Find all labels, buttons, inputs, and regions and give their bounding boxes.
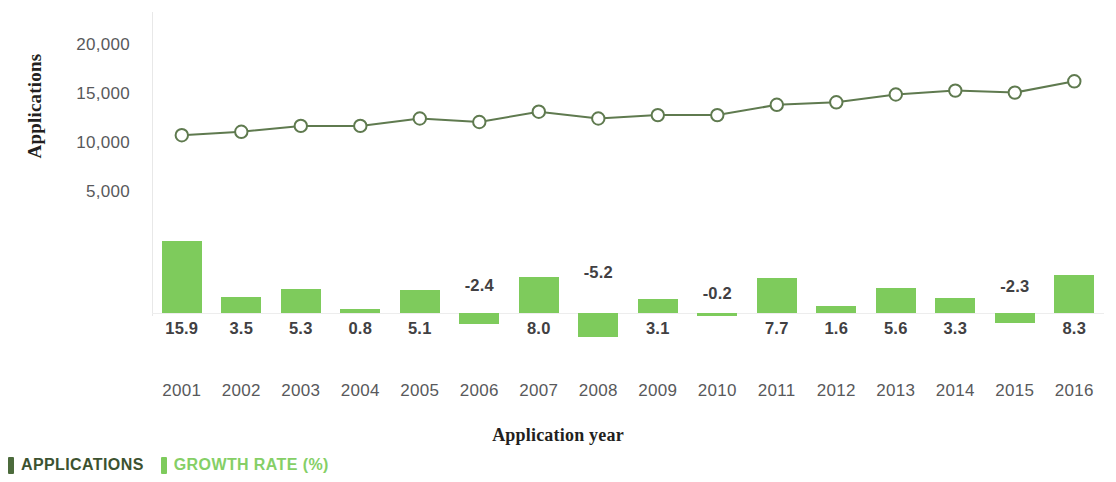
bar [995,313,1035,323]
bar-value-label: -2.3 [975,277,1055,296]
legend-swatch-icon [8,457,14,474]
chart-figure: Applications Application year 5,00010,00… [0,0,1116,482]
line-data-point [1009,86,1021,98]
bar-value-label: 3.3 [915,319,995,338]
bar [281,289,321,313]
bar [935,298,975,313]
line-data-point [711,109,723,121]
line-data-point [176,129,188,141]
bar [757,278,797,313]
bar [578,313,618,337]
line-data-point [949,84,961,96]
line-data-point [235,126,247,138]
x-tick-label: 2016 [1034,381,1114,401]
line-data-point [890,88,902,100]
bar [340,309,380,313]
bar [459,313,499,324]
legend-swatch-icon [161,457,167,474]
line-data-point [295,120,307,132]
line-data-point [473,116,485,128]
bar-value-label: 5.1 [380,319,460,338]
legend-label: APPLICATIONS [21,456,144,474]
legend-item[interactable]: GROWTH RATE (%) [161,456,329,474]
line-data-point [533,106,545,118]
applications-line [182,81,1075,135]
bar-value-label: 8.3 [1034,319,1114,338]
bar [697,313,737,316]
chart-legend: APPLICATIONSGROWTH RATE (%) [8,456,329,474]
bar [638,299,678,313]
line-data-point [592,112,604,124]
bar-value-label: -2.4 [439,276,519,295]
bar [162,241,202,313]
bar [816,306,856,313]
bar-value-label: -5.2 [558,263,638,282]
bar [400,290,440,313]
bar [1054,275,1094,313]
bar-value-label: 8.0 [499,319,579,338]
line-data-point [1068,75,1080,87]
bar [876,288,916,313]
line-data-point [652,109,664,121]
bar-value-label: -0.2 [677,284,757,303]
line-data-point [414,112,426,124]
bar [519,277,559,313]
line-data-point [771,99,783,111]
bar-value-label: 3.1 [618,319,698,338]
line-data-point [354,120,366,132]
bar [221,297,261,313]
legend-item[interactable]: APPLICATIONS [8,456,144,474]
line-data-point [830,96,842,108]
legend-label: GROWTH RATE (%) [174,456,329,474]
